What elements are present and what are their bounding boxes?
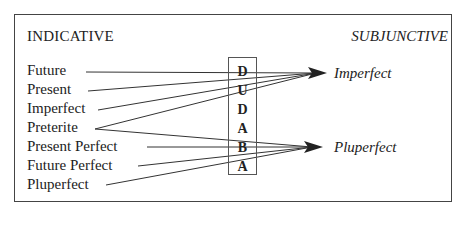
mnemonic-letter: A [229, 122, 256, 136]
mnemonic-box: D U D A B A [228, 57, 257, 175]
line-future-to-imperfect [86, 72, 316, 73]
mnemonic-letter: D [229, 103, 256, 117]
mnemonic-letter: B [229, 141, 256, 155]
line-pluperfect-to-pluperfect [106, 147, 312, 185]
mnemonic-letter: U [229, 84, 256, 98]
mnemonic-letter: A [229, 160, 256, 174]
line-imperfect-to-imperfect [98, 73, 316, 110]
line-preterite-to-pluperfect [95, 129, 312, 147]
mnemonic-letter: D [229, 65, 256, 79]
